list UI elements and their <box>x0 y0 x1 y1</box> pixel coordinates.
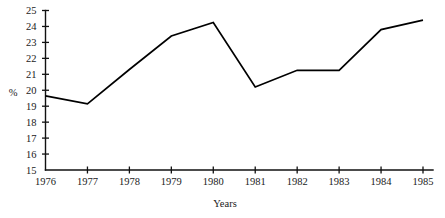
x-tick-label: 1980 <box>203 176 224 187</box>
x-tick-label: 1985 <box>413 176 434 187</box>
x-tick-label: 1977 <box>77 176 98 187</box>
y-tick-label: 16 <box>26 149 37 160</box>
y-tick-label: 21 <box>26 69 37 80</box>
x-tick-label: 1983 <box>329 176 350 187</box>
y-axis-title: % <box>9 87 18 98</box>
y-tick-label: 24 <box>26 21 37 32</box>
y-tick-label: 20 <box>26 85 37 96</box>
x-tick-label: 1978 <box>119 176 140 187</box>
y-axis-tick-labels: 1516171819202122232425 <box>26 5 37 176</box>
y-tick-label: 17 <box>26 133 37 144</box>
y-tick-label: 18 <box>26 117 37 128</box>
y-tick-label: 22 <box>26 53 37 64</box>
y-tick-label: 15 <box>26 165 37 176</box>
x-axis-title: Years <box>213 198 236 209</box>
line-chart: 1516171819202122232425 19761977197819791… <box>0 0 445 218</box>
chart-canvas: 1516171819202122232425 19761977197819791… <box>0 0 445 218</box>
x-tick-label: 1976 <box>35 176 56 187</box>
x-tick-label: 1984 <box>371 176 393 187</box>
y-tick-label: 23 <box>26 37 37 48</box>
y-tick-label: 25 <box>26 5 37 16</box>
y-tick-label: 19 <box>26 101 37 112</box>
x-tick-label: 1982 <box>287 176 308 187</box>
x-tick-label: 1981 <box>245 176 266 187</box>
x-tick-label: 1979 <box>161 176 182 187</box>
